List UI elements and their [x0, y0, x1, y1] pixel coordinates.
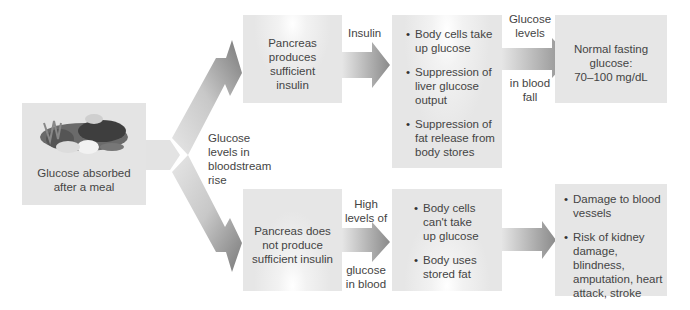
start-arrow [143, 140, 180, 170]
branch-label: Glucose levels in bloodstream rise [208, 131, 271, 187]
no-insulin-effects-box: Body cellscan't takeup glucose Body uses… [392, 189, 502, 291]
glucose-in-blood-label: glucose in blood [340, 263, 392, 291]
insulin-effects-box: Body cells takeup glucose Suppression of… [392, 15, 502, 168]
pancreas-insufficient-box: Pancreas does not produce sufficient ins… [243, 189, 342, 291]
meal-food-icon [22, 103, 146, 163]
meal-label-line2: after a meal [22, 180, 146, 194]
insulin-label: Insulin [348, 26, 381, 40]
complications-arrow [500, 221, 556, 259]
meal-label-line1: Glucose absorbed [22, 166, 146, 180]
effect-item: Body usesstored fat [414, 253, 500, 281]
no-insulin-effects-list: Body cellscan't takeup glucose Body uses… [414, 201, 500, 291]
pancreas-sufficient-box: Pancreas produces sufficient insulin [243, 15, 342, 103]
insulin-arrow [341, 42, 390, 88]
complications-list: Damage to bloodvessels Risk of kidneydam… [564, 192, 666, 310]
effect-item: Suppression ofliver glucoseoutput [406, 65, 500, 107]
effect-item: Body cellscan't takeup glucose [414, 201, 500, 243]
complication-item: Risk of kidneydamage, blindness,amputati… [564, 230, 666, 300]
meal-box: Glucose absorbed after a meal [22, 103, 146, 205]
complication-item: Damage to bloodvessels [564, 192, 666, 220]
effect-item: Suppression offat release frombody store… [406, 117, 500, 159]
high-levels-label: High levels of [340, 197, 392, 225]
high-glucose-arrow [341, 222, 390, 262]
complications-box: Damage to bloodvessels Risk of kidneydam… [555, 184, 667, 296]
normal-fasting-box: Normal fasting glucose: 70–100 mg/dL [555, 15, 667, 103]
effect-item: Body cells takeup glucose [406, 27, 500, 55]
glucose-levels-label: Glucose levels [500, 12, 560, 40]
in-blood-fall-label: in blood fall [500, 76, 560, 104]
insulin-effects-list: Body cells takeup glucose Suppression of… [406, 27, 500, 169]
